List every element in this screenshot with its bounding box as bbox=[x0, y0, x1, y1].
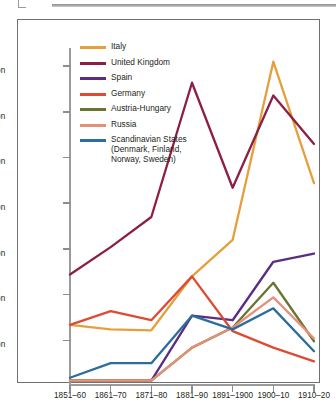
scan-corner-mark bbox=[18, 0, 26, 8]
legend-label: Scandinavian States (Denmark, Finland, N… bbox=[111, 135, 187, 165]
series-line bbox=[70, 297, 314, 380]
legend-label: Spain bbox=[111, 73, 132, 83]
y-tick-label: 3.5 million bbox=[0, 56, 26, 75]
legend-label: Austria-Hungary bbox=[111, 104, 171, 114]
legend-item[interactable]: Scandinavian States (Denmark, Finland, N… bbox=[80, 135, 202, 165]
chart-frame: .5 million1 million1.5 million2 million2… bbox=[17, 19, 320, 383]
legend-item[interactable]: Germany bbox=[80, 89, 202, 99]
page-header-rule bbox=[52, 4, 336, 7]
legend-swatch-icon bbox=[80, 93, 106, 96]
legend-label: United Kingdom bbox=[111, 58, 170, 68]
figure-page: .5 million1 million1.5 million2 million2… bbox=[0, 0, 336, 405]
y-tick-label: 2.5 million bbox=[0, 148, 26, 167]
legend-item[interactable]: Italy bbox=[80, 42, 202, 52]
x-tick-label: 1910–20 bbox=[290, 391, 336, 400]
legend-item[interactable]: United Kingdom bbox=[80, 58, 202, 68]
y-tick-label: 3 million bbox=[0, 102, 26, 121]
legend-label: Italy bbox=[111, 42, 126, 52]
legend-swatch-icon bbox=[80, 124, 106, 127]
series-line bbox=[70, 308, 314, 377]
series-line bbox=[70, 283, 314, 381]
legend-item[interactable]: Spain bbox=[80, 73, 202, 83]
legend-label: Russia bbox=[111, 120, 136, 130]
legend-label: Germany bbox=[111, 89, 145, 99]
legend-swatch-icon bbox=[80, 46, 106, 49]
legend-swatch-icon bbox=[80, 77, 106, 80]
legend-swatch-icon bbox=[80, 62, 106, 65]
y-tick-label: 2 million bbox=[0, 193, 26, 212]
y-tick-label: 1 million bbox=[0, 285, 26, 304]
chart-legend: ItalyUnited KingdomSpainGermanyAustria-H… bbox=[80, 42, 202, 170]
legend-item[interactable]: Austria-Hungary bbox=[80, 104, 202, 114]
y-tick-label: .5 million bbox=[0, 330, 26, 349]
legend-item[interactable]: Russia bbox=[80, 120, 202, 130]
y-tick-label: 1.5 million bbox=[0, 239, 26, 258]
legend-swatch-icon bbox=[80, 108, 106, 111]
legend-swatch-icon bbox=[80, 139, 106, 142]
